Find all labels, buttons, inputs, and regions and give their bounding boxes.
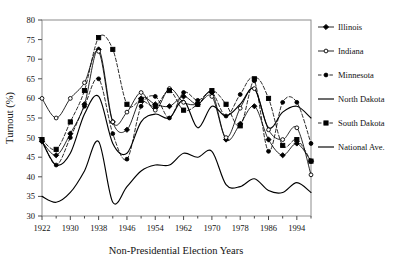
marker-south-dakota	[295, 137, 299, 141]
marker-illinois	[167, 104, 172, 109]
marker-minnesota	[281, 100, 285, 104]
y-axis-title: Turnout (%)	[4, 92, 16, 144]
x-tick-label: 1930	[62, 223, 79, 233]
legend-item: North Dakota	[318, 94, 385, 104]
legend-item: South Dakota	[318, 118, 385, 128]
marker-indiana	[83, 81, 87, 85]
y-tick-label: 35	[27, 191, 36, 201]
y-tick-label: 65	[27, 74, 36, 84]
x-tick-label: 1962	[175, 223, 192, 233]
marker-south-dakota	[111, 47, 115, 51]
marker-minnesota	[125, 157, 129, 161]
marker-illinois	[54, 153, 59, 158]
x-tick-label: 1922	[34, 223, 51, 233]
marker-south-dakota	[281, 143, 285, 147]
y-axis-ticks: 3035404550556065707580	[27, 15, 43, 221]
marker-south-dakota	[196, 102, 200, 106]
marker-minnesota	[224, 114, 228, 118]
marker-indiana	[54, 116, 58, 120]
series-line-indiana	[42, 50, 311, 174]
y-tick-label: 60	[27, 93, 36, 103]
marker-indiana	[295, 126, 299, 130]
marker-south-dakota	[139, 98, 143, 102]
marker-indiana	[252, 87, 256, 91]
x-tick-label: 1994	[288, 223, 306, 233]
legend-marker	[324, 73, 328, 77]
legend-item: Illinois	[318, 22, 362, 32]
legend-label: Indiana	[338, 46, 364, 56]
marker-indiana	[40, 97, 44, 101]
marker-south-dakota	[40, 137, 44, 141]
y-tick-label: 50	[27, 133, 36, 143]
marker-indiana	[224, 136, 228, 140]
marker-minnesota	[153, 95, 157, 99]
marker-south-dakota	[68, 120, 72, 124]
legend-item: National Ave.	[318, 142, 385, 152]
marker-south-dakota	[252, 77, 256, 81]
marker-minnesota	[182, 91, 186, 95]
y-tick-label: 55	[27, 113, 36, 123]
marker-indiana	[97, 49, 101, 53]
marker-south-dakota	[82, 88, 86, 92]
marker-indiana	[281, 138, 285, 142]
marker-minnesota	[267, 149, 271, 153]
marker-minnesota	[68, 136, 72, 140]
x-axis-title: Non-Presidential Election Years	[109, 245, 243, 256]
y-tick-label: 75	[27, 35, 36, 45]
x-tick-label: 1986	[260, 223, 277, 233]
x-tick-label: 1970	[203, 223, 220, 233]
legend-label: South Dakota	[338, 118, 385, 128]
marker-indiana	[210, 95, 214, 99]
marker-indiana	[267, 128, 271, 132]
marker-minnesota	[54, 163, 58, 167]
marker-minnesota	[309, 142, 313, 146]
y-tick-label: 80	[27, 15, 36, 25]
marker-indiana	[68, 97, 72, 101]
legend-label: Illinois	[338, 22, 362, 32]
x-tick-label: 1938	[90, 223, 107, 233]
marker-indiana	[125, 110, 129, 114]
x-tick-label: 1954	[147, 223, 165, 233]
marker-south-dakota	[97, 36, 101, 40]
marker-minnesota	[139, 104, 143, 108]
y-tick-label: 70	[27, 54, 36, 64]
legend-label: Minnesota	[338, 70, 374, 80]
marker-south-dakota	[210, 88, 214, 92]
marker-illinois	[266, 137, 271, 142]
legend-label: North Dakota	[338, 94, 385, 104]
legend-item: Indiana	[318, 46, 364, 56]
marker-minnesota	[97, 77, 101, 81]
series-lines-group	[42, 35, 311, 204]
legend: IllinoisIndianaMinnesotaNorth DakotaSout…	[318, 22, 385, 152]
marker-minnesota	[111, 132, 115, 136]
y-tick-label: 45	[27, 152, 36, 162]
marker-indiana	[139, 91, 143, 95]
legend-marker	[324, 121, 328, 125]
legend-marker	[324, 49, 328, 53]
marker-indiana	[182, 100, 186, 104]
marker-south-dakota	[125, 102, 129, 106]
marker-minnesota	[168, 116, 172, 120]
marker-indiana	[111, 120, 115, 124]
y-tick-label: 40	[27, 172, 36, 182]
marker-minnesota	[295, 100, 299, 104]
marker-south-dakota	[167, 88, 171, 92]
x-tick-label: 1946	[118, 223, 135, 233]
marker-south-dakota	[266, 96, 270, 100]
legend-marker	[323, 24, 328, 29]
x-tick-label: 1978	[232, 223, 249, 233]
marker-indiana	[153, 108, 157, 112]
line-chart-canvas: 3035404550556065707580 19221930193819461…	[0, 0, 396, 269]
marker-illinois	[280, 153, 285, 158]
marker-south-dakota	[153, 104, 157, 108]
x-axis-ticks: 1922193019381946195419621970197819861994	[34, 216, 312, 233]
legend-label: National Ave.	[338, 142, 385, 152]
marker-south-dakota	[224, 102, 228, 106]
legend-item: Minnesota	[318, 70, 374, 80]
marker-minnesota	[196, 98, 200, 102]
chart-figure: 3035404550556065707580 19221930193819461…	[0, 0, 396, 269]
marker-indiana	[309, 173, 313, 177]
marker-minnesota	[83, 104, 87, 108]
marker-indiana	[238, 106, 242, 110]
marker-minnesota	[238, 93, 242, 97]
